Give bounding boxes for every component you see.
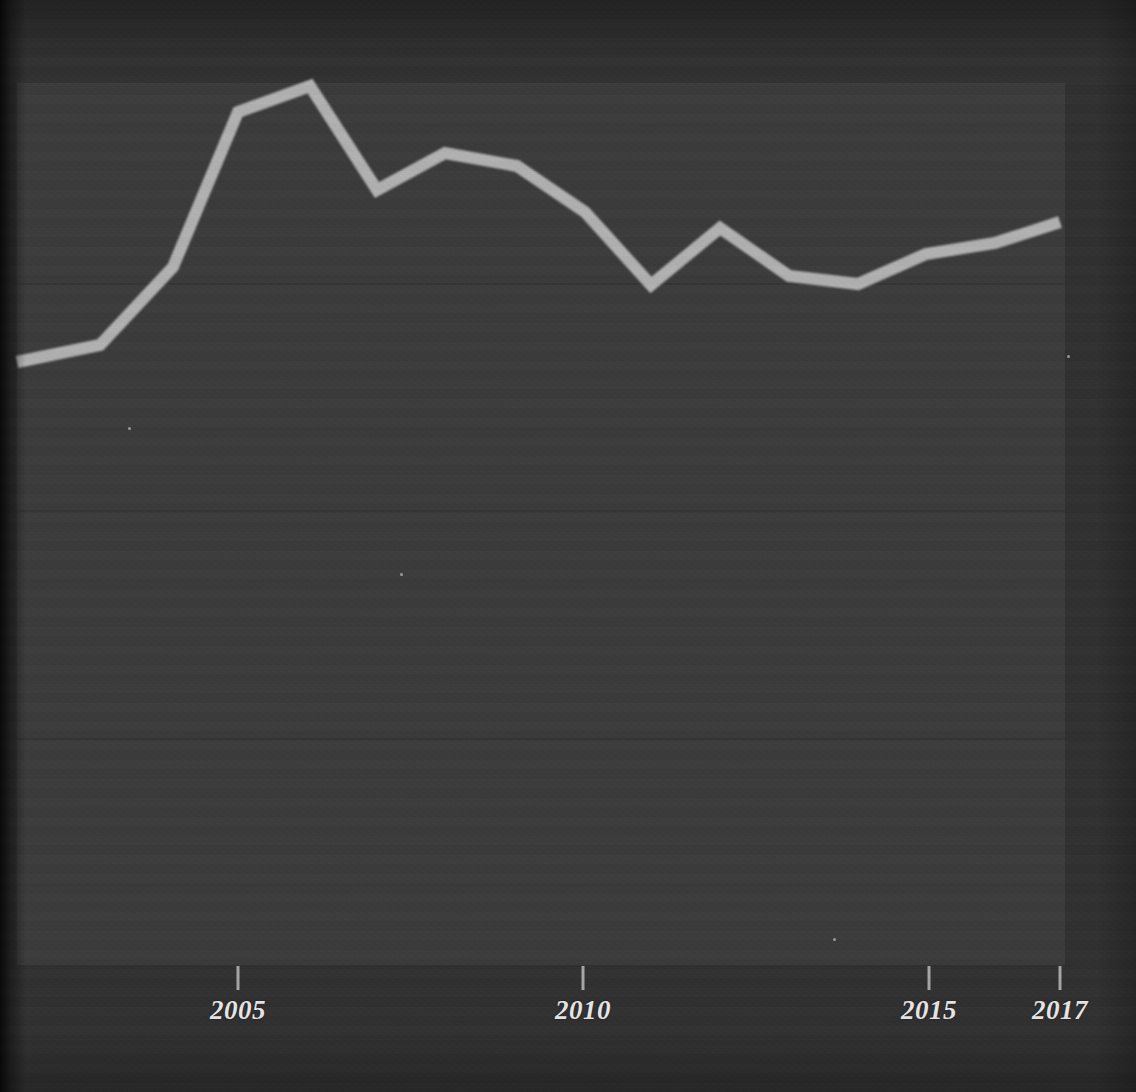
line-series-1 <box>17 86 1060 362</box>
x-axis-tick-label: 2017 <box>1032 995 1088 1026</box>
x-axis-tick-label: 2015 <box>901 995 957 1026</box>
chart-canvas <box>0 0 1136 1092</box>
x-axis-tick-label: 2005 <box>210 995 266 1026</box>
x-axis-ticks <box>238 966 1060 990</box>
x-axis-tick-label: 2010 <box>555 995 611 1026</box>
chart-figure: 2005201020152017 <box>0 0 1136 1092</box>
